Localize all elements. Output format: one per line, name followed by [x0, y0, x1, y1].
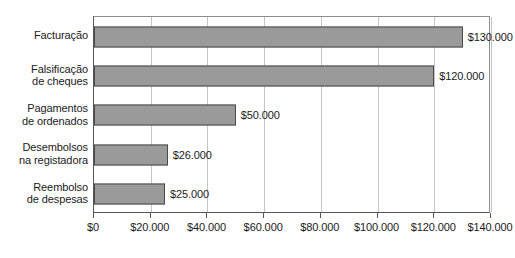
axis-tick: [433, 213, 434, 218]
axis-tick: [377, 213, 378, 218]
axis-tick-label: $20.000: [130, 221, 169, 233]
bar: [94, 184, 165, 205]
bar: [94, 26, 463, 47]
category-axis-labels: FacturaçãoFalsificação de chequesPagamen…: [0, 16, 88, 213]
bar-value-label: $26.000: [173, 149, 212, 161]
category-label: Falsificação de cheques: [0, 63, 88, 88]
value-axis: $0$20.000$40.000$60.000$80.000$100.000$1…: [93, 213, 490, 258]
bar-row: $26.000: [94, 135, 489, 174]
bar-value-label: $120.000: [439, 70, 484, 82]
gridline: [491, 17, 492, 212]
bar-value-label: $130.000: [468, 31, 513, 43]
bar-row: $25.000: [94, 175, 489, 214]
axis-tick-label: $0: [87, 221, 99, 233]
bar-chart: FacturaçãoFalsificação de chequesPagamen…: [0, 0, 515, 258]
axis-tick: [206, 213, 207, 218]
axis-tick: [263, 213, 264, 218]
axis-tick: [150, 213, 151, 218]
bar-row: $130.000: [94, 17, 489, 56]
bar-row: $120.000: [94, 56, 489, 95]
bar-row: $50.000: [94, 96, 489, 135]
bar: [94, 66, 434, 87]
bar-value-label: $50.000: [241, 109, 280, 121]
bar-value-label: $25.000: [170, 188, 209, 200]
plot-area: $130.000$120.000$50.000$26.000$25.000: [93, 16, 490, 213]
bar: [94, 105, 236, 126]
axis-tick-label: $120.000: [411, 221, 456, 233]
axis-tick: [320, 213, 321, 218]
axis-tick-label: $100.000: [354, 221, 399, 233]
category-label: Reembolso de despesas: [0, 181, 88, 206]
bar: [94, 144, 168, 165]
axis-tick-label: $80.000: [300, 221, 339, 233]
axis-tick: [490, 213, 491, 218]
category-label: Pagamentos de ordenados: [0, 102, 88, 127]
category-label: Desembolsos na registadora: [0, 141, 88, 166]
category-label: Facturação: [0, 29, 88, 42]
axis-tick-label: $40.000: [187, 221, 226, 233]
axis-tick-label: $140.000: [467, 221, 512, 233]
axis-tick-label: $60.000: [244, 221, 283, 233]
axis-tick: [93, 213, 94, 218]
